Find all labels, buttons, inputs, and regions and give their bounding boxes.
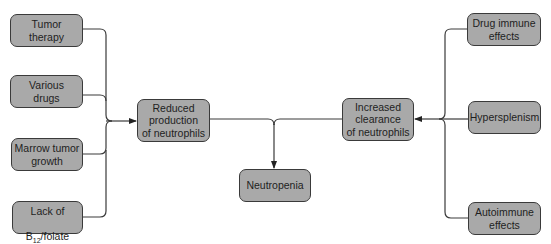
node-hypersplenism: Hypersplenism — [468, 101, 541, 134]
node-autoimmune-effects: Autoimmune effects — [468, 202, 541, 235]
node-lack-b12-folate: Lack of B12/folate — [12, 201, 83, 234]
connector-autoimmune — [439, 119, 468, 218]
node-label: Increased clearance of neutrophils — [346, 101, 409, 139]
node-label: Marrow tumor growth — [15, 142, 80, 167]
connector-lack-b12 — [83, 150, 106, 217]
node-label: Hypersplenism — [470, 111, 539, 124]
node-neutropenia: Neutropenia — [239, 169, 311, 202]
node-label: Neutropenia — [246, 179, 303, 192]
node-label: Lack of B12/folate — [26, 193, 69, 243]
node-label: Tumor therapy — [29, 18, 64, 43]
b-letter: B — [26, 230, 33, 242]
connector-drug-immune — [439, 29, 467, 119]
node-label-line1: Lack of — [26, 205, 69, 218]
node-various-drugs: Various drugs — [10, 75, 83, 108]
connector-increased-out — [274, 119, 342, 125]
node-tumor-therapy: Tumor therapy — [10, 14, 83, 47]
folate-text: /folate — [41, 230, 70, 242]
connector-marrow — [83, 121, 112, 154]
connector-reduced-out — [210, 119, 274, 125]
node-increased-clearance: Increased clearance of neutrophils — [342, 98, 414, 141]
node-drug-immune-effects: Drug immune effects — [467, 13, 541, 46]
node-reduced-production: Reduced production of neutrophils — [137, 99, 210, 142]
node-label: Drug immune effects — [472, 17, 535, 42]
neutropenia-causes-diagram: Tumor therapy Various drugs Marrow tumor… — [0, 0, 551, 244]
connector-various-drugs — [83, 95, 106, 101]
node-label-line2: B12/folate — [26, 230, 69, 242]
node-label: Autoimmune effects — [475, 206, 534, 231]
subscript-12: 12 — [33, 237, 41, 244]
connector-tumor-therapy — [83, 29, 112, 121]
node-label: Reduced production of neutrophils — [142, 102, 205, 140]
node-label: Various drugs — [29, 79, 64, 104]
node-marrow-tumor-growth: Marrow tumor growth — [11, 138, 83, 171]
